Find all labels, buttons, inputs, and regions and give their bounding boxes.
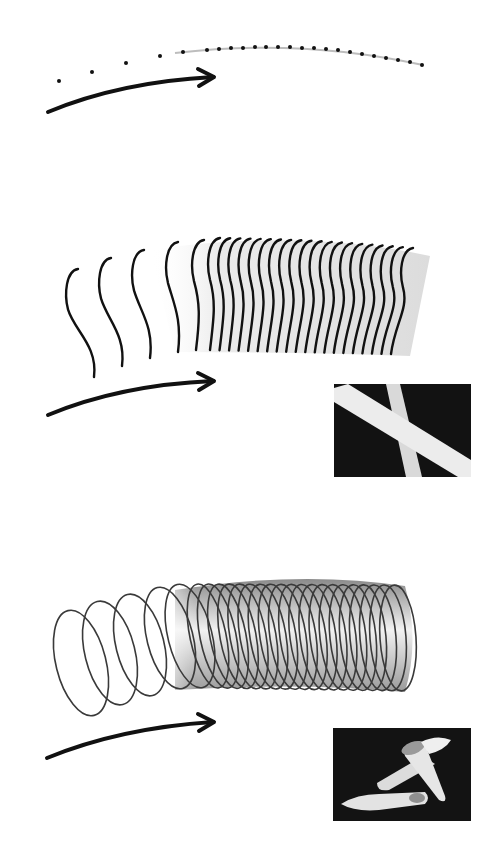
point-dot	[396, 58, 400, 62]
point-dot	[276, 45, 280, 49]
point-dot	[205, 48, 209, 52]
point-dot	[384, 56, 388, 60]
point-dot	[57, 79, 61, 83]
ring-ellipse	[73, 596, 147, 711]
arrow-icon	[47, 714, 214, 758]
point-dot	[324, 47, 328, 51]
dot-sequence	[57, 45, 424, 83]
panel-points	[48, 45, 424, 112]
point-dot	[217, 47, 221, 51]
point-dot	[264, 45, 268, 49]
point-dot	[360, 52, 364, 56]
point-dot	[372, 54, 376, 58]
point-dot	[253, 45, 257, 49]
point-dot	[300, 46, 304, 50]
point-dot	[229, 46, 233, 50]
point-dot	[124, 61, 128, 65]
ring-ellipse	[44, 605, 119, 722]
point-dot	[420, 63, 424, 67]
photo-crossing-tubes	[334, 384, 471, 477]
arrow-icon	[48, 69, 214, 112]
point-dot	[312, 46, 316, 50]
section-curve	[132, 250, 151, 358]
illustration-stage	[0, 0, 501, 845]
penne-pasta-image	[333, 728, 471, 821]
point-dot	[90, 70, 94, 74]
point-dot	[181, 50, 185, 54]
arrow-icon	[48, 373, 214, 415]
photo-penne-pasta	[333, 728, 471, 821]
point-dot	[241, 46, 245, 50]
point-dot	[408, 60, 412, 64]
section-curve	[66, 269, 94, 377]
section-curve	[99, 258, 122, 366]
crossing-tubes-image	[334, 384, 471, 477]
point-dot	[336, 48, 340, 52]
point-dot	[158, 54, 162, 58]
point-dot	[288, 45, 292, 49]
point-dot	[348, 50, 352, 54]
